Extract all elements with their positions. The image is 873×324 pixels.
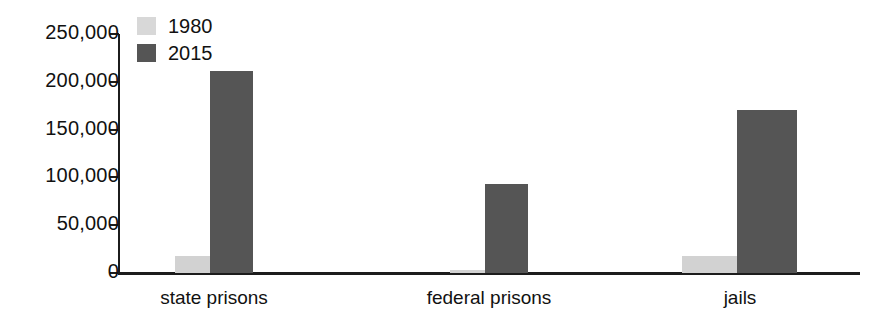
x-axis-label-jails: jails (724, 287, 757, 309)
x-axis-label-federal-prisons: federal prisons (427, 287, 552, 309)
y-axis-tick-label: 200,000 (15, 69, 119, 92)
bar-jails-1980 (682, 256, 737, 273)
legend-swatch-icon-1980 (137, 17, 156, 35)
chart-legend: 1980 2015 (137, 12, 213, 66)
legend-item-2015: 2015 (137, 39, 213, 66)
legend-item-1980: 1980 (137, 12, 213, 39)
bar-state-prisons-1980 (175, 256, 210, 273)
legend-swatch-icon-2015 (137, 44, 156, 62)
bar-federal-prisons-2015 (485, 184, 528, 273)
bar-state-prisons-2015 (210, 71, 253, 273)
legend-label-1980: 1980 (168, 16, 213, 36)
plot-area (120, 34, 860, 273)
bar-federal-prisons-1980 (450, 270, 485, 273)
bar-jails-2015 (737, 110, 797, 273)
y-axis-tick-label: 100,000 (15, 164, 119, 187)
y-axis-tick-label: 0 (15, 260, 119, 283)
y-axis-tick-label: 150,000 (15, 117, 119, 140)
x-axis-label-state-prisons: state prisons (160, 287, 268, 309)
bar-chart: 050,000100,000150,000200,000250,000 stat… (0, 0, 873, 324)
legend-label-2015: 2015 (168, 43, 213, 63)
y-axis-tick-label: 250,000 (15, 21, 119, 44)
y-axis-tick-label: 50,000 (15, 212, 119, 235)
